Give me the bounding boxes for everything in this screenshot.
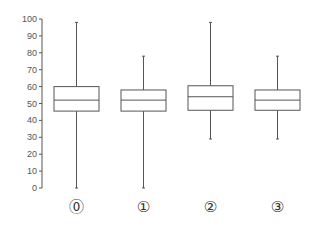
y-tick-label: 30 <box>27 132 37 142</box>
box-series <box>54 22 300 188</box>
y-tick-label: 20 <box>27 149 37 159</box>
x-category-label: ① <box>137 198 150 216</box>
iqr-box <box>54 87 99 112</box>
x-category-label: ② <box>204 198 217 216</box>
y-tick-label: 70 <box>27 65 37 75</box>
y-tick-label: 100 <box>22 14 37 24</box>
box-3 <box>255 56 300 139</box>
y-tick-label: 80 <box>27 48 37 58</box>
y-tick-label: 40 <box>27 115 37 125</box>
iqr-box <box>188 86 233 111</box>
y-tick-label: 10 <box>27 166 37 176</box>
box-1 <box>121 56 166 188</box>
y-tick-label: 60 <box>27 82 37 92</box>
box-plot-chart: 0102030405060708090100 ⓪①②③ <box>0 0 316 228</box>
y-tick-label: 90 <box>27 31 37 41</box>
x-category-label: ⓪ <box>69 198 84 216</box>
box-2 <box>188 22 233 139</box>
y-tick-label: 50 <box>27 99 37 109</box>
y-tick-label: 0 <box>32 183 37 193</box>
x-category-label: ③ <box>271 198 284 216</box>
box-0 <box>54 22 99 188</box>
x-axis-labels: ⓪①②③ <box>69 198 284 216</box>
y-axis: 0102030405060708090100 <box>22 14 42 193</box>
